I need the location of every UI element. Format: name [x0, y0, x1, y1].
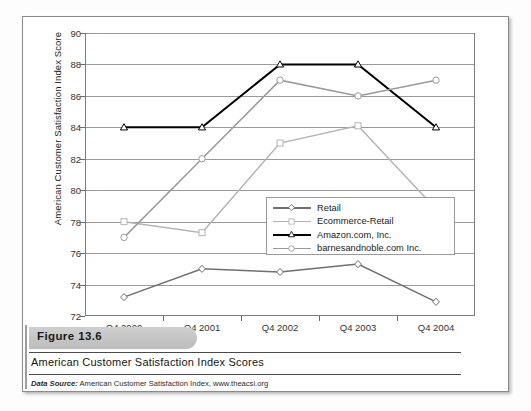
- circle-marker-icon: [288, 245, 295, 252]
- circle-marker-icon: [277, 77, 283, 83]
- diamond-marker-icon: [121, 294, 128, 301]
- y-tick-label: 80: [53, 185, 81, 196]
- legend-swatch: [272, 202, 312, 214]
- y-tick-label: 84: [53, 122, 81, 133]
- series-amazon-com-inc: [120, 61, 439, 130]
- y-tick-label: 86: [53, 90, 81, 101]
- caption-rule-top: [29, 352, 461, 353]
- x-axis-tick-marks: [85, 316, 475, 321]
- legend-item: Retail: [272, 201, 449, 215]
- chart-legend: RetailEcommerce-RetailAmazon.com, Inc.ba…: [266, 197, 455, 255]
- series-line: [124, 64, 436, 127]
- series-retail: [121, 261, 440, 306]
- square-marker-icon: [277, 140, 283, 146]
- series-layer: [85, 33, 475, 316]
- caption-title: American Customer Satisfaction Index Sco…: [31, 356, 264, 368]
- y-tick-label: 76: [53, 248, 81, 259]
- circle-marker-icon: [199, 156, 205, 162]
- circle-marker-icon: [121, 234, 127, 240]
- diamond-marker-icon: [355, 261, 362, 268]
- square-marker-icon: [121, 219, 127, 225]
- legend-item: Amazon.com, Inc.: [272, 228, 449, 242]
- legend-label: Amazon.com, Inc.: [317, 230, 391, 240]
- legend-label: Retail: [317, 203, 341, 213]
- y-tick-label: 90: [53, 28, 81, 39]
- triangle-marker-icon: [288, 232, 294, 237]
- legend-label: barnesandnoble.com Inc.: [317, 243, 421, 253]
- legend-item: Ecommerce-Retail: [272, 215, 449, 229]
- legend-swatch: [272, 215, 312, 227]
- legend-label: Ecommerce-Retail: [317, 216, 393, 226]
- y-axis-tick-labels: 90888684828078767472: [53, 33, 81, 316]
- circle-marker-icon: [355, 93, 361, 99]
- figure-root: American Customer Satisfaction Index Sco…: [0, 0, 531, 411]
- caption-source-text: American Customer Satisfaction Index, ww…: [78, 379, 268, 388]
- square-marker-icon: [355, 123, 361, 129]
- legend-item: barnesandnoble.com Inc.: [272, 242, 449, 256]
- x-tick-mark: [241, 316, 242, 321]
- legend-swatch: [272, 229, 312, 241]
- diamond-marker-icon: [288, 205, 294, 211]
- circle-marker-icon: [433, 77, 439, 83]
- y-tick-label: 82: [53, 153, 81, 164]
- chart-area: American Customer Satisfaction Index Sco…: [23, 17, 508, 323]
- y-tick-label: 88: [53, 59, 81, 70]
- square-marker-icon: [199, 230, 205, 236]
- diamond-marker-icon: [199, 265, 206, 272]
- figure-number-label: Figure 13.6: [37, 330, 102, 342]
- caption-rule-bottom: [29, 374, 461, 375]
- figure-frame: American Customer Satisfaction Index Sco…: [22, 16, 509, 392]
- diamond-marker-icon: [277, 268, 284, 275]
- x-tick-mark: [163, 316, 164, 321]
- caption-left-rule: [25, 325, 27, 389]
- square-marker-icon: [288, 218, 295, 225]
- triangle-marker-icon: [288, 231, 295, 238]
- y-tick-label: 74: [53, 279, 81, 290]
- circle-marker-icon: [288, 245, 294, 251]
- figure-caption: Figure 13.6 American Customer Satisfacti…: [23, 323, 508, 391]
- diamond-marker-icon: [288, 204, 295, 211]
- caption-source: Data Source: American Customer Satisfact…: [31, 379, 268, 388]
- x-tick-mark: [397, 316, 398, 321]
- diamond-marker-icon: [433, 298, 440, 305]
- legend-swatch: [272, 242, 312, 254]
- y-tick-label: 72: [53, 311, 81, 322]
- y-tick-label: 78: [53, 216, 81, 227]
- x-tick-mark: [319, 316, 320, 321]
- square-marker-icon: [288, 219, 293, 224]
- caption-source-prefix: Data Source:: [31, 379, 78, 388]
